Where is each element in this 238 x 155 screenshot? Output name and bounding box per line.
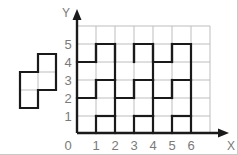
y-axis-arrow xyxy=(73,9,82,20)
x-axis-label: X xyxy=(227,139,235,153)
y-tick-1: 1 xyxy=(64,109,71,124)
y-tick-5: 5 xyxy=(64,37,71,52)
x-axis-arrow xyxy=(218,129,229,138)
figure-canvas: Y X 0 1 2 3 4 5 6 1 2 3 4 5 xyxy=(0,0,238,155)
y-tick-4: 4 xyxy=(64,55,71,70)
y-tick-3: 3 xyxy=(64,73,71,88)
tetromino-tiling-figure: Y X 0 1 2 3 4 5 6 1 2 3 4 5 xyxy=(0,0,238,155)
y-tick-2: 2 xyxy=(64,91,71,106)
tetromino-pieces xyxy=(77,44,191,133)
x-tick-5: 5 xyxy=(168,138,175,153)
x-tick-4: 4 xyxy=(149,138,156,153)
y-axis-label: Y xyxy=(62,6,70,20)
x-tick-1: 1 xyxy=(92,138,99,153)
bottom-frame-divider xyxy=(0,154,238,155)
right-frame-divider xyxy=(237,0,238,155)
s-tetromino-key xyxy=(20,54,56,108)
x-tick-3: 3 xyxy=(130,138,137,153)
x-tick-2: 2 xyxy=(111,138,118,153)
origin-label: 0 xyxy=(64,138,71,153)
x-tick-6: 6 xyxy=(187,138,194,153)
piece-outline-2 xyxy=(134,44,191,133)
